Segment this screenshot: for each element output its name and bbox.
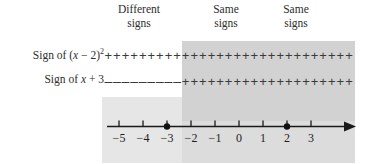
axis-tick-label: 1 (253, 131, 273, 146)
axis-arrow-head (344, 122, 356, 132)
axis-tick-label: 2 (277, 131, 297, 146)
axis-tick-label: −1 (205, 131, 225, 146)
axis-tick-label: 3 (301, 131, 321, 146)
axis-tick-label: −4 (133, 131, 153, 146)
axis-tick-label: −5 (109, 131, 129, 146)
critical-point-dot (164, 123, 170, 129)
sign-chart-figure: Different signs Same signs Same signs Si… (0, 0, 368, 164)
critical-point-dot (284, 123, 290, 129)
axis-tick-group (119, 121, 311, 127)
axis-tick-label: −3 (157, 131, 177, 146)
axis-tick-label: −2 (181, 131, 201, 146)
axis-tick-label: 0 (229, 131, 249, 146)
